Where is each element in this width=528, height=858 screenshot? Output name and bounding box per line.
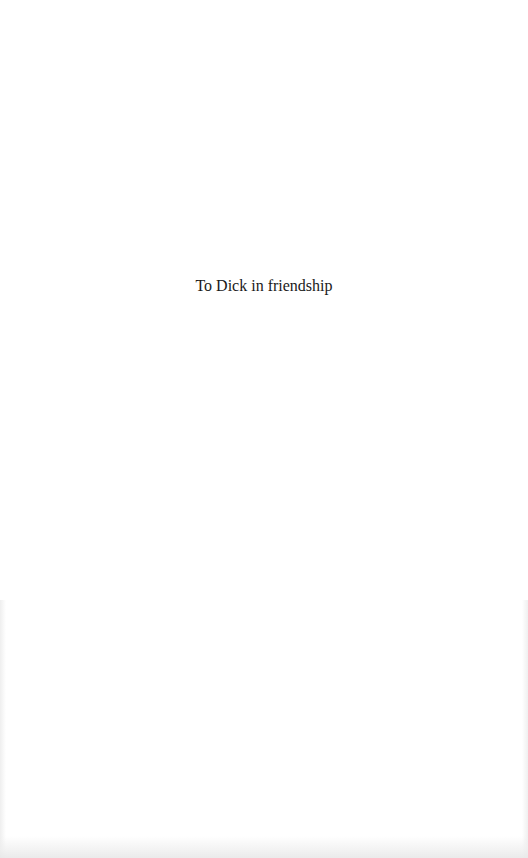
scan-edge-shadow-right — [522, 600, 528, 858]
book-page: To Dick in friendship — [0, 0, 528, 858]
scan-noise-bottom — [0, 836, 528, 858]
scan-edge-shadow-left — [0, 600, 6, 858]
dedication-text: To Dick in friendship — [0, 276, 528, 296]
